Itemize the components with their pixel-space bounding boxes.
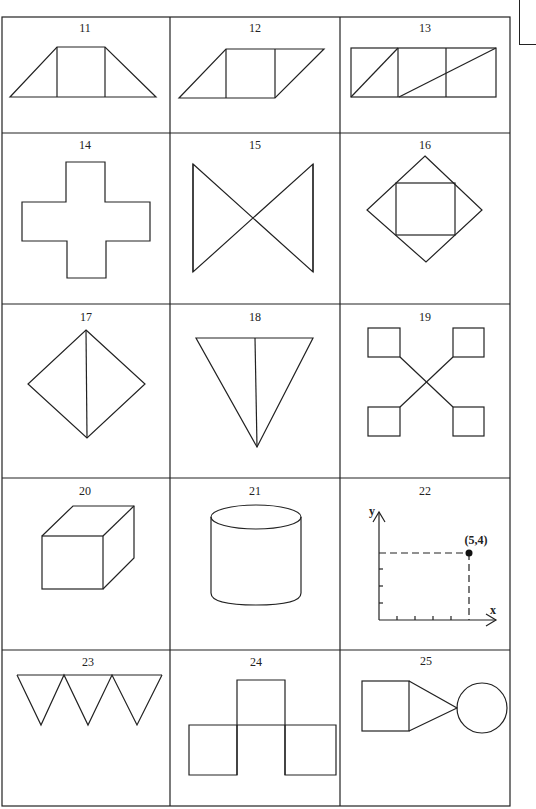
label-12: 12 bbox=[249, 21, 261, 35]
shape-12-parallelogram bbox=[179, 49, 324, 98]
label-23: 23 bbox=[82, 655, 94, 669]
shape-19-squares-x bbox=[368, 328, 484, 436]
shape-21-cylinder bbox=[211, 505, 301, 605]
axis-y-label: y bbox=[369, 504, 375, 518]
shape-13-squares-diagonals bbox=[351, 48, 496, 97]
label-11: 11 bbox=[79, 21, 91, 35]
axis-x-label: x bbox=[490, 603, 496, 617]
label-18: 18 bbox=[249, 310, 261, 324]
label-22: 22 bbox=[419, 484, 431, 498]
shape-15-bowtie bbox=[193, 164, 313, 272]
shape-18-inverted-triangle bbox=[196, 338, 313, 447]
shape-16-diamond-square bbox=[367, 156, 482, 262]
shape-20-cube bbox=[42, 506, 134, 589]
shape-23-triangles bbox=[17, 675, 162, 725]
label-16: 16 bbox=[419, 138, 431, 152]
label-19: 19 bbox=[419, 310, 431, 324]
label-15: 15 bbox=[249, 138, 261, 152]
shape-22-coordinate-plot bbox=[373, 512, 496, 626]
shape-17-diamond-line bbox=[28, 330, 145, 438]
point-label: (5,4) bbox=[465, 533, 488, 547]
label-14: 14 bbox=[79, 138, 91, 152]
label-20: 20 bbox=[79, 484, 91, 498]
shape-24-squares-t bbox=[189, 680, 336, 775]
label-21: 21 bbox=[249, 484, 261, 498]
label-24: 24 bbox=[250, 655, 262, 669]
shape-25-square-triangle-circle bbox=[362, 681, 507, 733]
shape-14-plus bbox=[22, 162, 150, 278]
shape-11-trapezoid bbox=[10, 47, 156, 97]
label-17: 17 bbox=[80, 310, 92, 324]
label-25: 25 bbox=[420, 654, 432, 668]
label-13: 13 bbox=[419, 21, 431, 35]
